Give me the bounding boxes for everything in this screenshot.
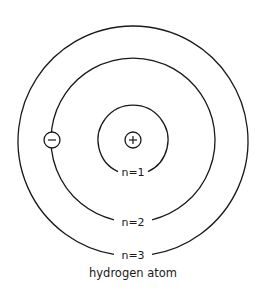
hydrogen-atom-diagram: n=1 n=2 n=3 hydrogen atom (0, 0, 259, 290)
diagram-caption: hydrogen atom (89, 266, 177, 280)
orbit-label-n3: n=3 (121, 249, 144, 262)
orbit-label-n1: n=1 (121, 166, 144, 179)
orbit-label-n2: n=2 (121, 216, 144, 229)
diagram-canvas: n=1 n=2 n=3 hydrogen atom (0, 0, 259, 290)
electron-icon (44, 132, 60, 148)
nucleus-proton-icon (125, 132, 141, 148)
